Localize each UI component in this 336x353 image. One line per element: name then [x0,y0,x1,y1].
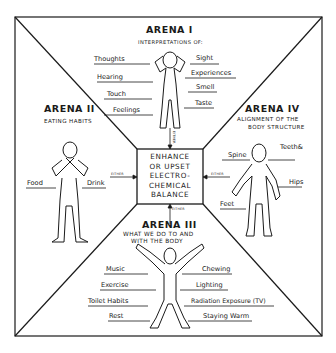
either-top: EITHER [172,131,176,144]
label-spine: Spine [228,152,246,159]
arena4-title: ARENA IV [245,104,300,114]
center-box-text: ENHANCE OR UPSET ELECTRO- CHEMICAL BALAN… [137,152,203,200]
either-right: EITHER [211,172,224,176]
label-toilet-habits: Toilet Habits [88,298,128,305]
label-radiation-exposure: Radiation Exposure (TV) [191,298,266,304]
center-line-5: BALANCE [137,190,203,200]
label-feet: Feet [220,201,234,208]
either-bottom: EITHER [172,207,185,211]
figure-arena1 [155,52,185,128]
arena3-subtitle-2: WITH THE BODY [131,239,183,245]
label-drink: Drink [87,180,105,187]
arena3-subtitle-1: WHAT WE DO TO AND [123,232,194,238]
label-food: Food [27,180,43,187]
label-exercise: Exercise [101,282,128,289]
label-taste: Taste [195,100,212,107]
label-hearing: Hearing [97,74,123,81]
arena1-subtitle: INTERPRETATIONS OF: [138,40,203,45]
figure-arena3 [136,244,204,328]
diagonal-top-left [15,17,137,149]
arena1-title: ARENA I [146,25,193,35]
label-touch: Touch [107,91,126,98]
center-line-1: ENHANCE [137,152,203,162]
either-left: EITHER [111,172,124,176]
arena4-subtitle-2: BODY STRUCTURE [248,125,305,131]
arena2-title: ARENA II [44,104,95,114]
label-music: Music [106,266,125,273]
figure-arena2 [52,142,88,242]
label-feelings: Feelings [113,107,140,114]
arena3-title: ARENA III [142,220,197,230]
center-line-4: CHEMICAL [137,181,203,191]
center-line-2: OR UPSET [137,162,203,172]
label-thoughts: Thoughts [94,56,125,63]
label-chewing: Chewing [202,266,230,273]
label-experiences: Experiences [191,70,231,77]
center-line-3: ELECTRO- [137,171,203,181]
arena4-subtitle-1: ALIGNMENT OF THE [237,117,299,123]
label-staying-warm: Staying Warm [203,313,249,320]
label-sight: Sight [196,55,213,62]
label-hips: Hips [289,179,303,186]
label-lighting: Lighting [196,282,223,289]
label-teeth: Teeth& [280,144,303,151]
label-smell: Smell [196,84,214,91]
label-rest: Rest [109,313,123,320]
arena2-subtitle: EATING HABITS [44,119,92,125]
